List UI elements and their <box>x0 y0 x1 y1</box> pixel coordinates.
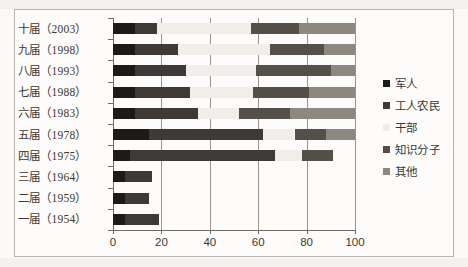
bar-segment <box>125 214 159 225</box>
legend-swatch-icon <box>383 80 390 87</box>
bar-segment <box>113 129 149 140</box>
bar-segment <box>324 44 355 55</box>
bar-segment <box>275 150 302 161</box>
x-tick-label-0: 0 <box>93 236 133 248</box>
legend-item-1: 军人 <box>383 72 440 94</box>
x-tick-mark-40 <box>210 230 211 234</box>
category-label-5: 六届（1983） <box>18 107 110 119</box>
plot-area <box>113 18 355 230</box>
bar-segment <box>256 65 331 76</box>
bar-segment <box>135 23 157 34</box>
bar-track <box>113 44 355 55</box>
legend-swatch-icon <box>383 168 390 175</box>
bar-segment <box>149 129 263 140</box>
x-tick-label-20: 20 <box>141 236 181 248</box>
scan-edge-bottom <box>0 258 468 267</box>
x-tick-mark-0 <box>113 230 114 234</box>
bar-track <box>113 65 355 76</box>
bar-row <box>113 103 355 124</box>
bar-segment <box>299 23 355 34</box>
bar-track <box>113 171 355 182</box>
category-label-3: 八届（1993） <box>18 65 110 77</box>
bar-segment <box>135 87 191 98</box>
legend-swatch-icon <box>383 146 390 153</box>
bar-segment <box>113 150 130 161</box>
legend-item-5: 其他 <box>383 160 440 182</box>
x-tick-mark-80 <box>307 230 308 234</box>
scan-edge-top <box>0 0 468 9</box>
bar-row <box>113 124 355 145</box>
x-axis-line <box>113 230 356 231</box>
bar-segment <box>113 171 125 182</box>
legend-label: 其他 <box>395 163 417 179</box>
category-label-7: 四届（1975） <box>18 150 110 162</box>
bar-track <box>113 150 355 161</box>
legend-swatch-icon <box>383 124 390 131</box>
bar-segment <box>198 108 239 119</box>
bar-segment <box>178 44 270 55</box>
chart-legend: 军人工人农民干部知识分子其他 <box>383 72 440 182</box>
bar-segment <box>125 171 152 182</box>
bar-segment <box>253 87 309 98</box>
bar-segment <box>130 150 275 161</box>
x-tick-label-80: 80 <box>287 236 327 248</box>
bar-segment <box>309 87 355 98</box>
gridline-100 <box>355 18 356 230</box>
bar-segment <box>113 44 135 55</box>
bar-segment <box>135 108 198 119</box>
bar-row <box>113 18 355 39</box>
legend-swatch-icon <box>383 102 390 109</box>
bar-row <box>113 60 355 81</box>
legend-item-4: 知识分子 <box>383 138 440 160</box>
bar-segment <box>190 87 253 98</box>
bar-segment <box>251 23 299 34</box>
bar-track <box>113 129 355 140</box>
bar-row <box>113 82 355 103</box>
category-label-8: 三届（1964） <box>18 171 110 183</box>
x-tick-mark-100 <box>355 230 356 234</box>
x-tick-label-40: 40 <box>190 236 230 248</box>
x-tick-mark-20 <box>161 230 162 234</box>
bar-segment <box>125 193 149 204</box>
category-label-1: 十届（2003） <box>18 23 110 35</box>
bar-segment <box>113 214 125 225</box>
bar-segment <box>331 65 355 76</box>
bar-segment <box>113 193 125 204</box>
bar-track <box>113 214 355 225</box>
legend-label: 军人 <box>395 75 417 91</box>
legend-label: 知识分子 <box>395 141 440 157</box>
x-tick-mark-60 <box>258 230 259 234</box>
bar-row <box>113 166 355 187</box>
bar-track <box>113 23 355 34</box>
bar-track <box>113 193 355 204</box>
x-tick-label-100: 100 <box>335 236 375 248</box>
bar-segment <box>113 87 135 98</box>
bar-segment <box>157 23 251 34</box>
bar-segment <box>302 150 333 161</box>
bar-segment <box>113 65 135 76</box>
x-tick-label-60: 60 <box>238 236 278 248</box>
bar-segment <box>186 65 256 76</box>
legend-item-2: 工人农民 <box>383 94 440 116</box>
bar-row <box>113 39 355 60</box>
bar-segment <box>113 23 135 34</box>
bar-segment <box>263 129 294 140</box>
category-label-4: 七届（1988） <box>18 86 110 98</box>
bar-segment <box>326 129 355 140</box>
bar-track <box>113 87 355 98</box>
bar-segment <box>135 44 179 55</box>
category-label-6: 五届（1978） <box>18 129 110 141</box>
bar-row <box>113 209 355 230</box>
bar-segment <box>135 65 186 76</box>
legend-item-3: 干部 <box>383 116 440 138</box>
bar-segment <box>113 108 135 119</box>
bar-row <box>113 188 355 209</box>
category-label-10: 一届（1954） <box>18 213 110 225</box>
bar-segment <box>290 108 355 119</box>
bar-segment <box>295 129 326 140</box>
bar-track <box>113 108 355 119</box>
bar-segment <box>239 108 290 119</box>
category-label-2: 九届（1998） <box>18 44 110 56</box>
bar-segment <box>270 44 323 55</box>
category-label-9: 二届（1959） <box>18 192 110 204</box>
